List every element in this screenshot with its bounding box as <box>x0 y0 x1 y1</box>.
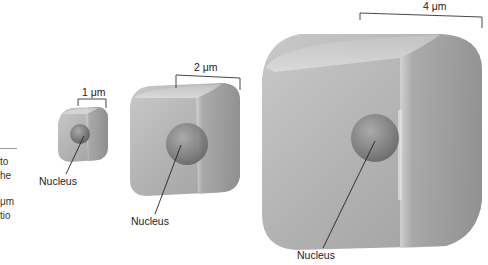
cell-small <box>58 99 108 174</box>
nucleus-label-small: Nucleus <box>39 175 77 187</box>
nucleus-large <box>351 114 399 162</box>
scale-label-1um: 1 μm <box>82 86 106 98</box>
nucleus-small <box>70 124 90 144</box>
cell-medium <box>130 75 240 214</box>
scale-label-2um: 2 μm <box>194 61 218 73</box>
cell-large <box>262 13 482 250</box>
cell-size-diagram <box>0 0 488 265</box>
scale-bracket-4um <box>360 13 482 28</box>
nucleus-label-medium: Nucleus <box>131 215 169 227</box>
nucleus-label-large: Nucleus <box>297 249 335 261</box>
scale-label-4um: 4 μm <box>423 0 447 12</box>
nucleus-medium <box>166 123 208 165</box>
scale-bracket-1um <box>78 99 106 108</box>
